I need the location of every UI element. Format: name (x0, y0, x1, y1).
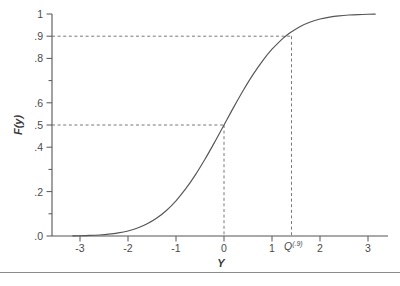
x-tick-label-1: 1 (269, 242, 275, 254)
x-tick-label-2: 2 (317, 242, 323, 254)
y-tick-label-4: .4 (34, 141, 43, 153)
x-tick-label-0: 0 (221, 242, 227, 254)
y-axis-title: F(y) (12, 115, 24, 136)
x-tick-label-3: 3 (365, 242, 371, 254)
y-tick-label-8: .8 (34, 52, 43, 64)
y-tick-label-5: .5 (34, 119, 43, 131)
quantile-label-superscript: (.9) (292, 240, 303, 248)
figure-container: 1 .9 .8 .6 .5 .4 .2 .0 F(y) -3 -2 -1 0 (0, 0, 400, 286)
y-tick-label-0: .0 (34, 230, 43, 242)
cdf-plot-svg: 1 .9 .8 .6 .5 .4 .2 .0 F(y) -3 -2 -1 0 (0, 0, 400, 286)
x-tick-label--1: -1 (171, 242, 180, 254)
x-tick-label--3: -3 (75, 242, 84, 254)
y-tick-label-9: .9 (34, 30, 43, 42)
y-tick-label-6: .6 (34, 97, 43, 109)
x-tick-label--2: -2 (123, 242, 132, 254)
y-tick-label-2: .2 (34, 186, 43, 198)
quantile-label-base: Q (284, 240, 292, 252)
plot-background (0, 0, 400, 286)
y-tick-label-1: 1 (37, 8, 43, 20)
